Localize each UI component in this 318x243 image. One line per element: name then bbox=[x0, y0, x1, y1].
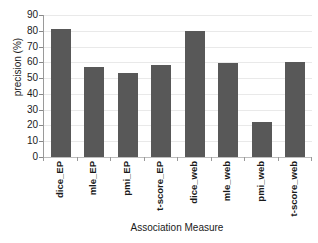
x-axis-tick-labels: dice_EPmle_EPpmi_EPt-score_EPdice_webmle… bbox=[43, 161, 311, 217]
x-axis-tick-label: pmi_web bbox=[255, 161, 267, 217]
plot-area bbox=[43, 15, 312, 157]
bar-slot bbox=[145, 15, 179, 157]
bar bbox=[118, 73, 138, 157]
bar bbox=[218, 63, 238, 157]
bar-slot bbox=[212, 15, 246, 157]
bars-group bbox=[44, 15, 312, 157]
x-axis-tick-label: mle_EP bbox=[87, 161, 99, 217]
bar-slot bbox=[245, 15, 279, 157]
x-label-slot: dice_web bbox=[177, 161, 211, 217]
y-axis-tick-label: 50 bbox=[22, 73, 38, 83]
x-label-slot: t-score_EP bbox=[144, 161, 178, 217]
bar-slot bbox=[111, 15, 145, 157]
bar-slot bbox=[279, 15, 313, 157]
x-label-slot: mle_web bbox=[211, 161, 245, 217]
bar bbox=[185, 31, 205, 157]
y-axis-tick-label: 30 bbox=[22, 105, 38, 115]
x-axis-tick-label: mle_web bbox=[221, 161, 233, 217]
bar bbox=[252, 122, 272, 158]
x-axis-tick-label: dice_web bbox=[188, 161, 200, 217]
x-axis-tick-label: t-score_EP bbox=[154, 161, 166, 217]
bar-slot bbox=[178, 15, 212, 157]
x-axis-tick-label: t-score_web bbox=[288, 161, 300, 217]
x-label-slot: pmi_EP bbox=[110, 161, 144, 217]
y-axis-tick-label: 90 bbox=[22, 10, 38, 20]
x-axis-tick-label: dice_EP bbox=[54, 161, 66, 217]
y-axis-tick-label: 0 bbox=[22, 152, 38, 162]
x-axis-title: Association Measure bbox=[43, 222, 311, 233]
x-axis-tick-mark bbox=[311, 157, 312, 161]
y-axis-tick-label: 70 bbox=[22, 42, 38, 52]
y-axis-tick-label: 40 bbox=[22, 89, 38, 99]
bar bbox=[151, 65, 171, 157]
y-axis-tick-label: 10 bbox=[22, 136, 38, 146]
y-axis-tick-label: 20 bbox=[22, 120, 38, 130]
y-axis-tick-labels: 9080706050403020100 bbox=[22, 15, 38, 157]
bar-slot bbox=[78, 15, 112, 157]
x-axis-tick-label: pmi_EP bbox=[121, 161, 133, 217]
y-axis-tick-label: 80 bbox=[22, 26, 38, 36]
bar-slot bbox=[44, 15, 78, 157]
x-label-slot: dice_EP bbox=[43, 161, 77, 217]
x-label-slot: t-score_web bbox=[278, 161, 312, 217]
y-axis-tick-label: 60 bbox=[22, 57, 38, 67]
bar bbox=[84, 67, 104, 157]
x-label-slot: mle_EP bbox=[77, 161, 111, 217]
x-label-slot: pmi_web bbox=[244, 161, 278, 217]
bar bbox=[51, 29, 71, 157]
bar-chart: precision (%) 9080706050403020100 dice_E… bbox=[0, 0, 318, 243]
bar bbox=[285, 62, 305, 157]
